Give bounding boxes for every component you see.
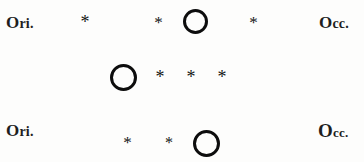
satellite-star: * <box>76 13 94 31</box>
satellite-star: * <box>161 135 177 151</box>
observation-row: Ori. * * * Occ. <box>0 0 364 54</box>
east-label-initial: O <box>6 13 19 32</box>
satellite-star: * <box>151 68 169 86</box>
observation-figure: Ori. * * * Occ. Ori. * * * Occ. Ori. * *… <box>0 0 364 162</box>
east-direction-label: Ori. <box>6 14 34 31</box>
planet-disc <box>193 130 220 157</box>
east-label-rest: ri. <box>19 16 33 31</box>
satellite-star: * <box>150 14 167 31</box>
west-direction-label: Occ. <box>319 14 349 31</box>
satellite-star: * <box>245 14 262 31</box>
planet-disc <box>183 9 208 34</box>
west-label-initial: O <box>319 13 332 32</box>
west-label-rest: cc. <box>332 16 349 31</box>
observation-row: Ori. * * * Occ. <box>0 54 364 108</box>
satellite-star: * <box>182 68 200 86</box>
observation-row: Ori. * * Occ. <box>0 108 364 162</box>
planet-disc <box>110 64 137 91</box>
satellite-star: * <box>213 68 231 86</box>
satellite-star: * <box>119 134 136 151</box>
